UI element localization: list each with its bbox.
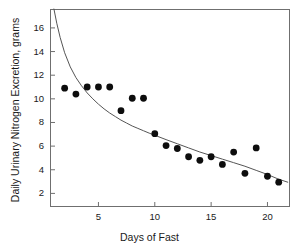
fitted-curve [54,9,288,182]
y-tick-label: 8 [22,117,44,127]
y-axis-ticks [50,28,55,193]
data-point [253,145,260,152]
chart-figure: 246810121416 5101520 Days of Fast Daily … [0,0,299,252]
y-tick-label: 10 [22,94,44,104]
data-point [61,85,68,92]
data-point [275,179,282,186]
y-tick-label: 2 [22,188,44,198]
data-point [106,84,113,91]
y-tick-label: 14 [22,47,44,57]
data-point [174,145,181,152]
data-point [118,107,125,114]
data-point [264,173,271,180]
data-point [163,142,170,149]
data-point [129,95,136,102]
y-tick-label: 12 [22,70,44,80]
data-point [84,84,91,91]
data-point [242,170,249,177]
x-tick-label: 15 [201,212,221,222]
data-point [196,157,203,164]
x-tick-label: 20 [257,212,277,222]
x-tick-label: 10 [145,212,165,222]
data-point [185,153,192,160]
data-point [73,91,80,98]
y-tick-label: 4 [22,165,44,175]
data-point [95,84,102,91]
data-point [151,130,158,137]
data-point-markers [61,84,282,186]
x-axis-title: Days of Fast [0,231,299,243]
data-point [219,161,226,168]
y-tick-label: 16 [22,23,44,33]
y-axis-title: Daily Urinary Nitrogen Excretion, grams [9,10,21,210]
data-point [208,153,215,160]
x-axis-ticks [98,202,267,207]
y-tick-label: 6 [22,141,44,151]
data-point [230,149,237,156]
x-tick-label: 5 [88,212,108,222]
data-point [140,95,147,102]
